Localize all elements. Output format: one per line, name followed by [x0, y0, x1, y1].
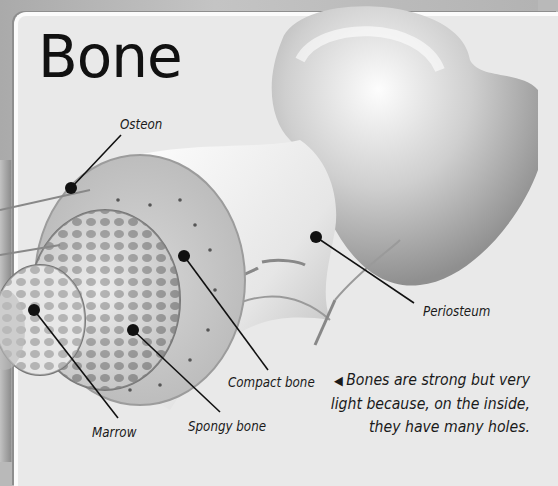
marrow-marker-dot	[28, 304, 40, 316]
label-marrow: Marrow	[92, 424, 136, 440]
caption-line-1: Bones are strong but very	[346, 370, 530, 389]
compact-bone-marker-dot	[178, 250, 190, 262]
caption-line-2: light because, on the inside,	[328, 392, 530, 415]
caption-line-3: they have many holes.	[328, 415, 530, 438]
osteon-marker-dot	[65, 182, 77, 194]
label-osteon: Osteon	[120, 116, 162, 132]
label-compact-bone: Compact bone	[228, 374, 315, 390]
label-periosteum: Periosteum	[423, 303, 490, 319]
page-title: Bone	[38, 28, 182, 86]
pointer-arrow-icon: ◀	[334, 373, 343, 388]
caption-text: ◀Bones are strong but very light because…	[328, 368, 530, 438]
periosteum-marker-dot	[310, 231, 322, 243]
label-spongy-bone: Spongy bone	[188, 418, 266, 434]
spongy-bone-marker-dot	[127, 324, 139, 336]
